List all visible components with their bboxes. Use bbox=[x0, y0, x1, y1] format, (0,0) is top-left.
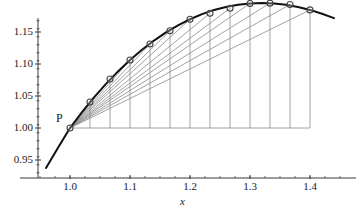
data-point[interactable] bbox=[207, 10, 213, 16]
data-point[interactable] bbox=[87, 99, 93, 105]
data-point[interactable] bbox=[227, 5, 233, 11]
secant-line bbox=[70, 3, 250, 128]
y-axis-tick-label: 1.15 bbox=[0, 26, 33, 37]
chart-figure: 0.951.001.051.101.151.01.11.21.31.4xP bbox=[0, 0, 364, 210]
secant-line bbox=[70, 31, 170, 128]
data-point[interactable] bbox=[107, 76, 113, 82]
data-point[interactable] bbox=[187, 16, 193, 22]
data-point[interactable] bbox=[307, 7, 313, 13]
data-point[interactable] bbox=[147, 41, 153, 47]
y-axis-tick-label: 1.00 bbox=[0, 122, 33, 133]
chart-canvas bbox=[0, 0, 364, 210]
secant-line bbox=[70, 13, 210, 128]
secant-line bbox=[70, 60, 130, 128]
data-point[interactable] bbox=[287, 1, 293, 7]
y-axis-tick-label: 1.10 bbox=[0, 58, 33, 69]
y-axis-tick-label: 0.95 bbox=[0, 154, 33, 165]
data-point-P[interactable] bbox=[67, 125, 73, 131]
data-point[interactable] bbox=[267, 0, 273, 6]
x-axis-tick-label: 1.4 bbox=[290, 181, 330, 192]
x-axis-tick-label: 1.0 bbox=[50, 181, 90, 192]
x-axis-tick-label: 1.2 bbox=[170, 181, 210, 192]
x-axis-title: x bbox=[180, 196, 185, 207]
x-axis-tick-label: 1.3 bbox=[230, 181, 270, 192]
point-label-P: P bbox=[56, 112, 63, 124]
data-point[interactable] bbox=[167, 28, 173, 34]
y-axis-tick-label: 1.05 bbox=[0, 90, 33, 101]
data-point[interactable] bbox=[127, 57, 133, 63]
data-point[interactable] bbox=[247, 0, 253, 6]
secant-line bbox=[70, 4, 290, 128]
x-axis-tick-label: 1.1 bbox=[110, 181, 150, 192]
